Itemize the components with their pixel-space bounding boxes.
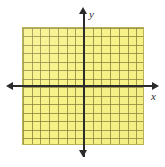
- x-axis-label: x: [151, 91, 156, 102]
- y-axis-arrow-down-icon: [79, 150, 87, 157]
- x-axis-arrow-right-icon: [152, 82, 159, 90]
- coordinate-plane-figure: y x: [0, 0, 165, 167]
- y-axis-label: y: [89, 9, 94, 20]
- y-axis-line: [83, 13, 85, 157]
- x-axis-arrow-left-icon: [6, 82, 13, 90]
- y-axis-arrow-up-icon: [79, 7, 87, 14]
